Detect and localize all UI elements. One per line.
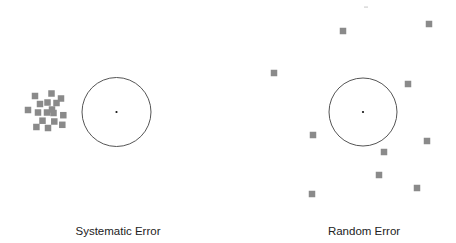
- measurement-point: [424, 138, 431, 145]
- measurement-point: [59, 122, 66, 129]
- measurement-point: [44, 99, 51, 106]
- measurement-point: [405, 81, 412, 88]
- measurement-point: [50, 110, 57, 117]
- measurement-point: [376, 172, 383, 179]
- target-center-dot: [362, 111, 364, 113]
- measurement-point: [32, 93, 39, 100]
- measurement-point: [48, 90, 55, 97]
- target-center-dot: [115, 111, 117, 113]
- measurement-point: [309, 191, 316, 198]
- systematic-panel: [25, 78, 151, 147]
- random-panel: [271, 21, 433, 198]
- measurement-point: [51, 118, 58, 125]
- stray-mark: [364, 7, 368, 8]
- measurement-point: [60, 112, 67, 119]
- measurement-point: [414, 185, 421, 192]
- measurement-point: [340, 28, 347, 35]
- measurement-point: [310, 132, 317, 139]
- measurement-point: [33, 124, 40, 131]
- measurement-point: [37, 101, 44, 108]
- measurement-point: [53, 100, 60, 107]
- measurement-point: [271, 70, 278, 77]
- measurement-point: [39, 117, 46, 124]
- measurement-point: [45, 125, 52, 132]
- measurement-point: [35, 109, 42, 116]
- random-error-label: Random Error: [328, 225, 400, 237]
- measurement-point: [426, 21, 433, 28]
- error-diagram: [0, 0, 456, 243]
- measurement-point: [381, 149, 388, 156]
- measurement-point: [25, 107, 32, 114]
- systematic-error-label: Systematic Error: [76, 225, 161, 237]
